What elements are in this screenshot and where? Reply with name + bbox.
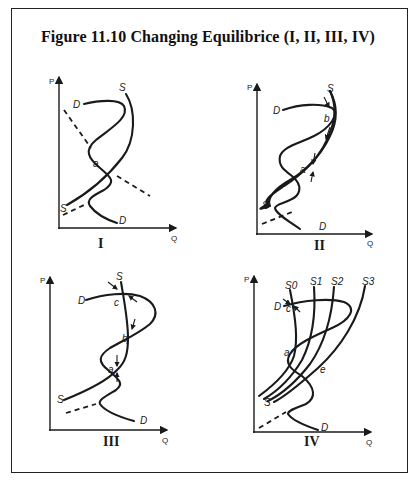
supply-label-s1: S1 [310, 276, 322, 287]
supply-label-top: S [119, 82, 126, 93]
demand-label-bottom: D [140, 415, 147, 426]
p-axis-label: P [49, 77, 54, 86]
supply-label-top: S [327, 83, 334, 94]
point-a: a [300, 164, 306, 175]
supply-label-bottom: S [264, 397, 271, 408]
panel-label-III: III [103, 434, 119, 449]
q-axis-label: Q [367, 239, 373, 248]
demand-label-bottom: D [319, 221, 326, 232]
arrow-icon [108, 282, 117, 289]
point-a: a [93, 158, 99, 169]
arrow-icon [129, 296, 137, 302]
arrow-icon [311, 172, 313, 182]
demand-label-top: D [274, 301, 281, 312]
point-b: b [324, 113, 330, 124]
point-e: e [320, 364, 326, 375]
point-c: c [286, 303, 291, 314]
figure-canvas: P Q S D a S D I P Q S D b [0, 0, 416, 485]
supply-label-s0: S0 [285, 280, 298, 291]
q-axis-label: Q [162, 436, 168, 445]
supply-label-s2: S2 [331, 276, 344, 287]
demand-label-top: D [73, 99, 80, 110]
supply-label-bottom: S [60, 203, 67, 214]
dashed-demand-extension-lower [117, 176, 150, 196]
panel-III: P Q S D c b a S D III [40, 271, 168, 449]
supply-label-s3: S3 [362, 276, 375, 287]
dashed-supply-extension [259, 412, 286, 428]
supply-curve [67, 94, 133, 205]
panel-label-IV: IV [304, 434, 320, 449]
demand-label-bottom: D [321, 422, 328, 433]
q-axis-label: Q [366, 438, 372, 447]
supply-label-bottom: S [262, 200, 269, 211]
arrow-icon [294, 306, 300, 312]
demand-curve [86, 294, 155, 421]
p-axis-label: P [247, 83, 252, 92]
dashed-demand-extension [64, 110, 91, 148]
supply-label-bottom: S [57, 394, 64, 405]
p-axis-label: P [40, 276, 45, 285]
point-c: c [114, 297, 119, 308]
demand-label-top: D [78, 295, 85, 306]
supply-label-top: S [116, 271, 123, 282]
point-a: a [108, 364, 114, 375]
point-a: a [284, 347, 290, 358]
q-axis-label: Q [171, 234, 177, 243]
panel-I: P Q S D a S D I [49, 77, 177, 251]
p-axis-label: P [244, 275, 249, 284]
demand-label-bottom: D [119, 215, 126, 226]
arrow-icon [132, 319, 135, 329]
demand-label-top: D [273, 105, 280, 116]
dashed-supply-extension [66, 404, 96, 413]
panel-label-I: I [98, 236, 103, 251]
point-b: b [122, 333, 128, 344]
panel-label-II: II [314, 238, 325, 253]
panel-II: P Q S D b a S D II [247, 83, 373, 253]
dashed-supply-extension [262, 212, 292, 224]
panel-IV: P Q S0 S1 S2 S3 D c a e S D IV [244, 275, 375, 449]
